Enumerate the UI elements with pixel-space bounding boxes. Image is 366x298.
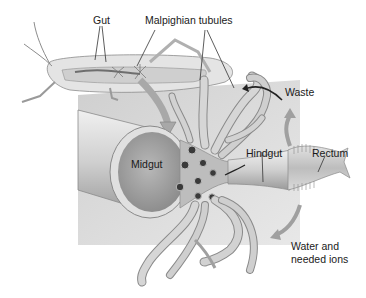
label-malpighian-tubules: Malpighian tubules bbox=[145, 14, 233, 26]
label-rectum: Rectum bbox=[312, 147, 348, 159]
label-hindgut: Hindgut bbox=[246, 147, 282, 159]
diagram-canvas: Gut Malpighian tubules Waste Midgut Hind… bbox=[0, 0, 366, 298]
label-midgut: Midgut bbox=[131, 158, 163, 170]
label-water-line2: needed ions bbox=[291, 253, 348, 265]
label-waste: Waste bbox=[285, 86, 314, 98]
label-gut: Gut bbox=[93, 14, 110, 26]
label-water-line1: Water and bbox=[291, 240, 339, 252]
